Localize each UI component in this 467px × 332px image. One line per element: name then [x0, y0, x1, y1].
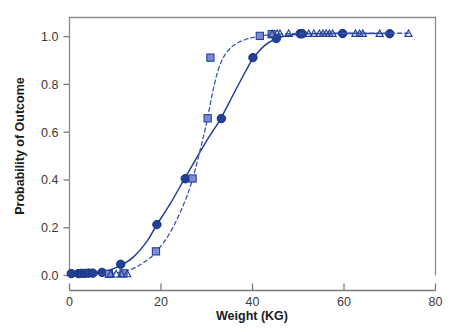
data-point-square	[189, 175, 196, 182]
y-tick-label: 1.0	[41, 30, 58, 44]
x-axis-ticks: 020406080	[66, 284, 442, 309]
x-tick-label: 0	[66, 295, 73, 309]
x-tick-label: 60	[337, 295, 351, 309]
data-point-circle	[181, 175, 189, 183]
y-tick-label: 0.4	[41, 173, 58, 187]
y-tick-label: 0.2	[41, 221, 58, 235]
solid-fit-line	[70, 33, 390, 274]
data-point-circle	[249, 53, 257, 61]
x-tick-label: 20	[154, 295, 168, 309]
data-point-square	[207, 54, 214, 61]
data-point-circle	[217, 114, 225, 122]
y-axis-ticks: 0.00.20.40.60.81.0	[41, 30, 69, 283]
series-3	[107, 30, 412, 277]
series-1	[67, 29, 394, 277]
dashed-fit-line	[97, 33, 410, 274]
x-tick-label: 80	[429, 295, 443, 309]
data-point-circle	[153, 220, 161, 228]
data-point-square	[152, 248, 159, 255]
x-tick-label: 40	[246, 295, 260, 309]
y-tick-label: 0.6	[41, 126, 58, 140]
chart-figure: 0.00.20.40.60.81.0 020406080 Weight (KG)…	[0, 0, 467, 332]
y-axis-title: Probability of Outcome	[13, 77, 27, 215]
series-2	[97, 31, 410, 278]
data-point-circle	[117, 260, 125, 268]
series-layer	[67, 29, 412, 277]
y-tick-label: 0.0	[41, 269, 58, 283]
chart-canvas: 0.00.20.40.60.81.0 020406080 Weight (KG)…	[0, 0, 467, 332]
data-point-square	[256, 32, 263, 39]
data-point-square	[204, 115, 211, 122]
y-tick-label: 0.8	[41, 78, 58, 92]
data-point-circle	[89, 269, 97, 277]
x-axis-title: Weight (KG)	[216, 309, 288, 323]
